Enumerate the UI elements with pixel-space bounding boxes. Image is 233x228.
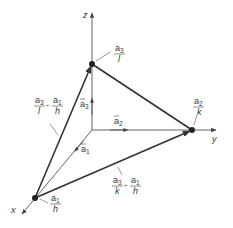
svg-text:l: l [38, 106, 41, 116]
x-axis-label: x [10, 205, 16, 215]
y-intercept-point [189, 127, 195, 133]
x-intercept-point [32, 195, 38, 201]
a3-label: a3 [80, 99, 89, 110]
svg-text:a1: a1 [51, 193, 60, 204]
svg-text:-: - [46, 100, 49, 110]
svg-text:a3: a3 [115, 43, 124, 54]
edge-x-to-y [35, 131, 190, 198]
svg-text:a1: a1 [53, 95, 62, 106]
a2-label: a2 [114, 116, 123, 127]
crystal-plane-diagram: z y x a3 a2 a1 a3 l a2 k a1 h a3 l [0, 0, 233, 228]
svg-text:h: h [133, 186, 138, 196]
svg-text:a3: a3 [35, 95, 44, 106]
y-intercept-label: a2 k [193, 96, 204, 125]
svg-text:k: k [197, 107, 202, 117]
z-intercept-label: a3 l [96, 43, 125, 64]
svg-text:a2: a2 [114, 116, 123, 127]
svg-text:a1: a1 [131, 175, 140, 186]
svg-text:l: l [118, 54, 121, 64]
svg-text:a3: a3 [80, 99, 89, 110]
edge-xy-label: a3 k - a1 h [112, 167, 141, 196]
edge-z-to-y [92, 64, 192, 130]
svg-text:a1: a1 [81, 144, 90, 155]
svg-text:h: h [55, 106, 60, 116]
svg-text:a3: a3 [113, 175, 122, 186]
a1-label: a1 [81, 144, 90, 155]
z-intercept-point [89, 61, 95, 67]
edge-xz-label: a3 l - a1 h [34, 95, 63, 135]
y-axis-label: y [211, 134, 217, 144]
svg-text:k: k [115, 186, 120, 196]
svg-text:-: - [124, 180, 127, 190]
x-intercept-label: a1 h [40, 193, 61, 214]
z-axis-label: z [82, 10, 88, 20]
svg-text:h: h [53, 204, 58, 214]
svg-text:a2: a2 [194, 96, 203, 107]
